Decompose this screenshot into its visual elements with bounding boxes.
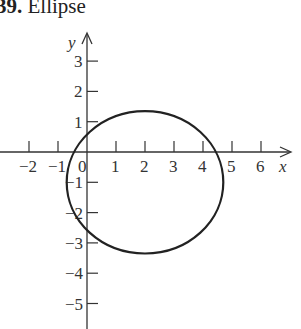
ellipse-plot: −2−10123456 321−1−2−3−4−5 x y [0,0,301,329]
y-axis-label: y [66,33,76,52]
x-ticks: −2−10123456 [19,141,265,176]
y-tick-label: −4 [65,264,84,283]
x-tick-label: 6 [256,157,265,176]
y-tick-label: −3 [65,234,83,253]
x-tick-label: 4 [198,157,207,176]
y-tick-label: 3 [74,52,83,71]
y-tick-label: 2 [74,82,83,101]
y-tick-label: −5 [65,295,83,314]
x-tick-label: −1 [48,157,66,176]
x-tick-label: 5 [227,157,236,176]
y-ticks: 321−1−2−3−4−5 [65,52,98,313]
x-axis-label: x [278,157,287,176]
x-tick-label: 3 [169,157,178,176]
x-tick-label: 2 [140,157,149,176]
y-tick-label: 1 [74,113,83,132]
x-tick-label: 1 [111,157,120,176]
x-tick-label: −2 [19,157,37,176]
